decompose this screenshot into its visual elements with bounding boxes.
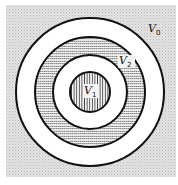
concentric-regions-diagram: V0 V2 V1 (0, 0, 178, 185)
